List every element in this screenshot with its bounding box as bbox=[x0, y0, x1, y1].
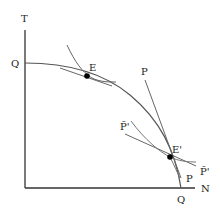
price-line-p-bottom-label: P bbox=[186, 173, 193, 184]
point-e-label: E bbox=[89, 62, 96, 73]
price-line-p bbox=[145, 80, 181, 178]
point-e-prime-label: E' bbox=[172, 144, 182, 155]
frontier-bottom-intercept-label: Q bbox=[177, 194, 185, 205]
production-frontier-curve bbox=[25, 63, 181, 188]
point-e-prime bbox=[167, 154, 173, 160]
point-e bbox=[84, 73, 90, 79]
x-axis-label: N bbox=[201, 183, 210, 194]
y-axis-label: T bbox=[21, 13, 28, 24]
frontier-top-intercept-label: Q bbox=[11, 58, 19, 69]
price-line-p-tilde-right-label: P̃' bbox=[200, 166, 209, 177]
price-line-p-top-label: P bbox=[141, 66, 148, 77]
price-line-p-tilde-left-label: P̃' bbox=[120, 121, 129, 132]
ppf-diagram: T N Q Q E E' P P P̃' P̃' bbox=[0, 0, 220, 216]
